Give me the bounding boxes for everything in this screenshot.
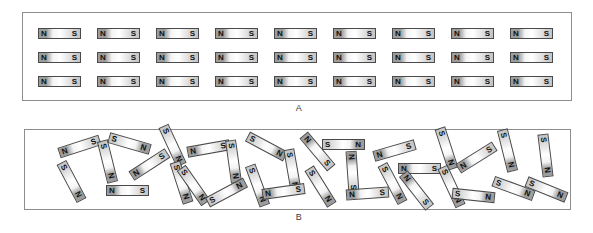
magnet-bar: NS xyxy=(333,76,376,87)
magnet-pole-left: N xyxy=(402,173,412,182)
magnet-pole-right: N xyxy=(506,161,515,169)
magnet-pole-left: N xyxy=(513,54,519,62)
magnet-pole-left: S xyxy=(248,134,256,144)
magnet-pole-left: S xyxy=(325,141,330,149)
magnet-pole-right: S xyxy=(544,54,549,62)
magnet-pole-left: N xyxy=(41,30,47,38)
magnet-pole-right: N xyxy=(394,192,404,201)
magnet-pole-left: N xyxy=(159,30,165,38)
magnet-pole-right: S xyxy=(405,142,412,151)
magnet-pole-right: S xyxy=(322,158,332,167)
magnet-pole-right: S xyxy=(190,78,195,86)
magnet-pole-left: S xyxy=(528,179,536,188)
magnet-pole-left: N xyxy=(218,54,224,62)
magnet-bar: NS xyxy=(333,52,376,63)
magnet-pole-right: S xyxy=(426,30,431,38)
magnet-pole-left: N xyxy=(100,30,106,38)
magnet-pole-right: S xyxy=(544,78,549,86)
magnet-bar: NS xyxy=(274,28,317,39)
magnet-pole-right: S xyxy=(367,54,372,62)
magnet-pole-left: S xyxy=(227,143,236,149)
magnet-pole-left: N xyxy=(303,135,313,145)
panel-b-label: B xyxy=(287,212,311,222)
magnet-pole-left: N xyxy=(159,78,165,86)
magnet-pole-left: N xyxy=(395,78,401,86)
magnet-pole-right: N xyxy=(355,141,361,149)
magnet-pole-right: S xyxy=(426,54,431,62)
magnet-pole-left: N xyxy=(100,78,106,86)
magnet-pole-left: N xyxy=(513,30,519,38)
magnet-bar: NS xyxy=(156,28,199,39)
magnet-pole-left: N xyxy=(190,147,197,156)
magnet-pole-left: N xyxy=(336,78,342,86)
magnet-bar: NS xyxy=(38,76,81,87)
magnet-pole-left: N xyxy=(349,190,355,198)
magnet-pole-right: S xyxy=(367,30,372,38)
magnet-pole-left: N xyxy=(277,78,283,86)
magnet-pole-left: N xyxy=(41,54,47,62)
magnet-pole-left: N xyxy=(336,54,342,62)
magnet-bar: NS xyxy=(333,28,376,39)
magnet-pole-right: S xyxy=(131,78,136,86)
magnet-pole-left: N xyxy=(376,150,384,159)
magnet-pole-left: N xyxy=(159,54,165,62)
magnet-pole-left: N xyxy=(265,189,272,198)
magnet-pole-left: N xyxy=(277,30,283,38)
magnet-pole-right: S xyxy=(190,54,195,62)
magnet-bar: NS xyxy=(38,28,81,39)
magnet-pole-right: N xyxy=(140,143,148,152)
magnet-pole-right: S xyxy=(158,152,167,162)
magnet-bar: NS xyxy=(274,76,317,87)
magnet-bar: SN xyxy=(322,139,365,150)
magnet-pole-left: N xyxy=(109,187,115,195)
magnet-bar: NS xyxy=(451,28,494,39)
magnet-pole-right: S xyxy=(308,54,313,62)
magnet-pole-right: S xyxy=(308,78,313,86)
magnet-pole-right: S xyxy=(131,30,136,38)
magnet-bar: NS xyxy=(215,52,258,63)
magnet-bar: NS xyxy=(451,76,494,87)
magnet-pole-right: N xyxy=(543,167,552,174)
magnet-pole-right: S xyxy=(485,54,490,62)
magnet-pole-left: S xyxy=(440,168,450,176)
magnet-bar: NS xyxy=(97,52,140,63)
magnet-pole-left: N xyxy=(61,147,69,156)
magnet-pole-left: S xyxy=(285,152,294,159)
magnet-pole-right: S xyxy=(131,54,136,62)
magnet-pole-right: S xyxy=(249,30,254,38)
magnet-pole-right: S xyxy=(249,54,254,62)
magnet-pole-left: N xyxy=(336,30,342,38)
magnet-pole-right: S xyxy=(249,78,254,86)
magnet-pole-right: N xyxy=(485,193,492,202)
magnet-pole-left: S xyxy=(208,195,216,205)
magnet-pole-right: S xyxy=(295,185,301,194)
magnet-bar: NS xyxy=(451,52,494,63)
magnet-bar: NS xyxy=(392,52,435,63)
magnet-pole-left: N xyxy=(132,168,141,178)
magnet-pole-right: S xyxy=(426,78,431,86)
magnet-pole-right: S xyxy=(308,30,313,38)
magnet-bar: NS xyxy=(510,28,553,39)
magnet-pole-right: S xyxy=(421,198,431,207)
magnet-pole-right: N xyxy=(106,172,115,180)
magnet-pole-left: N xyxy=(218,78,224,86)
magnet-pole-right: S xyxy=(485,30,490,38)
magnet-pole-right: S xyxy=(190,30,195,38)
magnet-pole-right: S xyxy=(485,78,490,86)
magnet-pole-right: N xyxy=(556,190,564,200)
magnet-bar: NS xyxy=(215,28,258,39)
magnet-pole-right: S xyxy=(367,78,372,86)
magnet-pole-left: N xyxy=(100,54,106,62)
magnet-pole-left: S xyxy=(437,130,446,138)
magnet-bar: NS xyxy=(156,52,199,63)
magnet-bar: NS xyxy=(392,28,435,39)
magnet-pole-left: N xyxy=(347,154,355,160)
magnet-bar: NS xyxy=(106,185,149,196)
magnet-pole-right: S xyxy=(379,188,385,196)
magnet-pole-left: S xyxy=(499,132,508,139)
figure-canvas: A B NSNSNSNSNSNSNSNSNSNSNSNSNSNSNSNSNSNS… xyxy=(0,0,593,233)
magnet-pole-left: S xyxy=(247,167,256,175)
magnet-bar: NS xyxy=(392,76,435,87)
panel-a-label: A xyxy=(287,103,311,113)
magnet-pole-left: S xyxy=(380,165,390,173)
